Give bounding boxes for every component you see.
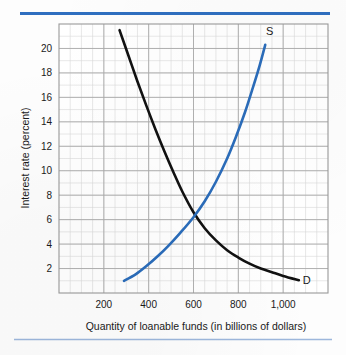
x-tick-label-group: 2004006008001,000: [95, 299, 296, 310]
x-tick-label: 200: [95, 299, 112, 310]
y-tick-label: 16: [41, 92, 53, 103]
x-tick-label: 800: [230, 299, 247, 310]
y-tick-label: 18: [41, 67, 53, 78]
y-tick-label: 20: [41, 43, 53, 54]
x-axis-title: Quantity of loanable funds (in billions …: [86, 320, 307, 332]
y-tick-label: 6: [46, 214, 52, 225]
x-tick-label: 600: [185, 299, 202, 310]
demand-label: D: [303, 274, 311, 286]
y-tick-label: 12: [41, 141, 53, 152]
loanable-funds-chart: 2468101214161820 2004006008001,000 SD In…: [0, 0, 346, 355]
supply-label: S: [266, 25, 273, 37]
figure-panel: 2468101214161820 2004006008001,000 SD In…: [0, 0, 346, 355]
y-tick-label-group: 2468101214161820: [41, 43, 53, 274]
y-tick-label: 4: [46, 239, 52, 250]
y-tick-label: 14: [41, 116, 53, 127]
y-tick-label: 8: [46, 190, 52, 201]
y-tick-label: 2: [46, 263, 52, 274]
y-tick-label: 10: [41, 165, 53, 176]
x-tick-label: 1,000: [271, 299, 296, 310]
y-axis-title: Interest rate (percent): [19, 108, 31, 209]
x-tick-label: 400: [140, 299, 157, 310]
